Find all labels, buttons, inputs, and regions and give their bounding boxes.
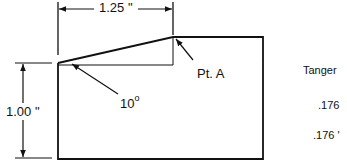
part-outline — [58, 37, 263, 159]
angle-label: 10o — [120, 94, 139, 110]
width-dimension-label: 1.25 " — [99, 2, 133, 14]
technical-drawing — [0, 0, 347, 166]
angle-leader — [72, 64, 118, 94]
right-panel-value-1: .176 — [318, 99, 339, 111]
point-a-leader — [176, 39, 193, 60]
point-a-label: Pt. A — [197, 68, 224, 80]
angle-reference-lines — [58, 38, 173, 65]
height-dimension-label: 1.00 " — [6, 106, 40, 118]
right-panel-heading: Tanger — [303, 64, 337, 76]
right-panel-value-2: .176 ' — [313, 129, 340, 141]
degree-symbol: o — [134, 93, 139, 103]
angle-value: 10 — [120, 96, 134, 111]
